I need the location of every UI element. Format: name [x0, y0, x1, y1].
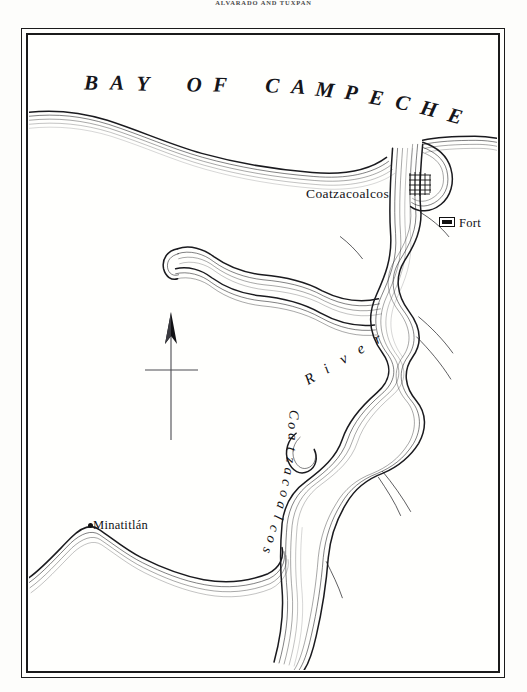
label-fort: Fort — [459, 216, 481, 231]
map-surface: .bank{fill:none;stroke:#1a1a1e;stroke-li… — [29, 36, 497, 670]
north-arrow-icon — [141, 310, 201, 442]
river-bank-hatching — [294, 148, 413, 666]
river-lagoon-branch — [287, 433, 317, 473]
western-branch-minatitlan — [29, 527, 288, 597]
label-coatzacoalcos: Coatzacoalcos — [306, 186, 389, 202]
running-head: ALVARADO AND TUXPAN — [0, 0, 527, 7]
label-minatitlan: Minatitlán — [93, 518, 148, 533]
town-grid-icon — [408, 171, 432, 197]
map-drawing: .bank{fill:none;stroke:#1a1a1e;stroke-li… — [29, 36, 497, 670]
map-plate-frame: .bank{fill:none;stroke:#1a1a1e;stroke-li… — [21, 28, 505, 678]
minor-creeks — [326, 213, 453, 598]
page-canvas: ALVARADO AND TUXPAN .bank{fill:none;stro… — [0, 0, 527, 692]
fort-icon — [439, 217, 455, 227]
coatzacoalcos-river-main — [274, 144, 424, 670]
